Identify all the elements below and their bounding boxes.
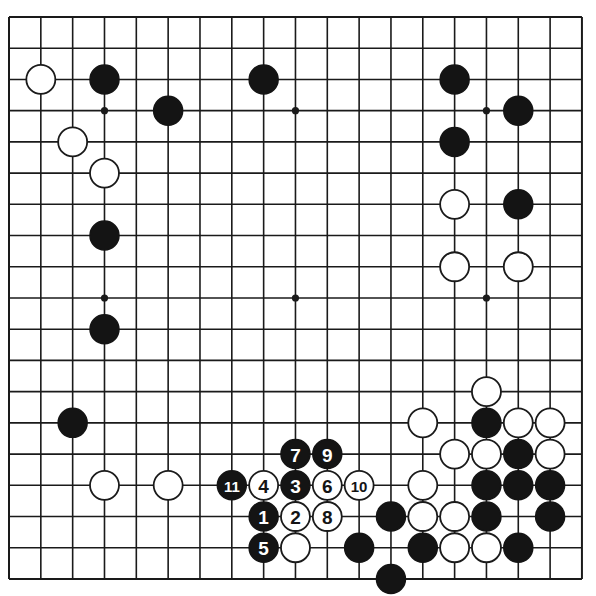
- numbered-move-8: 8: [313, 502, 342, 531]
- white-stone: [408, 502, 437, 531]
- star-point-icon: [483, 294, 490, 301]
- numbered-move-11: 11: [217, 471, 246, 500]
- white-stone: [90, 471, 119, 500]
- black-stone: [90, 65, 119, 94]
- black-stone: [504, 96, 533, 125]
- black-stone: [154, 96, 183, 125]
- black-stone: [472, 502, 501, 531]
- white-stone: [472, 377, 501, 406]
- go-board-diagram: 1234567891011: [0, 0, 596, 596]
- star-point-icon: [101, 294, 108, 301]
- black-stone: [90, 315, 119, 344]
- move-number-label: 2: [290, 507, 301, 528]
- white-stone: [440, 252, 469, 281]
- black-stone: [504, 533, 533, 562]
- move-number-label: 9: [322, 445, 333, 466]
- numbered-move-7: 7: [281, 440, 310, 469]
- white-stone: [154, 471, 183, 500]
- black-stone: [472, 408, 501, 437]
- white-stone: [440, 533, 469, 562]
- numbered-move-1: 1: [249, 502, 278, 531]
- white-stone: [536, 440, 565, 469]
- white-stone: [504, 408, 533, 437]
- black-stone: [440, 127, 469, 156]
- numbered-move-6: 6: [313, 471, 342, 500]
- black-stone: [345, 533, 374, 562]
- black-stone: [408, 533, 437, 562]
- black-stone: [536, 502, 565, 531]
- numbered-move-10: 10: [345, 471, 374, 500]
- white-stone: [440, 190, 469, 219]
- white-stone: [440, 440, 469, 469]
- black-stone: [472, 471, 501, 500]
- star-point-icon: [292, 107, 299, 114]
- numbered-move-9: 9: [313, 440, 342, 469]
- black-stone: [376, 564, 405, 593]
- star-point-icon: [292, 294, 299, 301]
- white-stone: [408, 471, 437, 500]
- white-stone: [472, 440, 501, 469]
- black-stone: [249, 65, 278, 94]
- white-stone: [58, 127, 87, 156]
- black-stone: [504, 440, 533, 469]
- numbered-move-3: 3: [281, 471, 310, 500]
- white-stone: [90, 159, 119, 188]
- black-stone: [536, 471, 565, 500]
- move-number-label: 7: [290, 445, 301, 466]
- black-stone: [440, 65, 469, 94]
- black-stone: [504, 190, 533, 219]
- white-stone: [440, 502, 469, 531]
- numbered-move-4: 4: [249, 471, 278, 500]
- white-stone: [536, 408, 565, 437]
- white-stone: [408, 408, 437, 437]
- star-point-icon: [483, 107, 490, 114]
- move-number-label: 6: [322, 476, 333, 497]
- white-stone: [26, 65, 55, 94]
- black-stone: [504, 471, 533, 500]
- white-stone: [281, 533, 310, 562]
- white-stone: [504, 252, 533, 281]
- black-stone: [90, 221, 119, 250]
- move-number-label: 4: [258, 476, 269, 497]
- move-number-label: 1: [258, 507, 269, 528]
- white-stone: [472, 533, 501, 562]
- black-stone: [376, 502, 405, 531]
- black-stone: [58, 408, 87, 437]
- move-number-label: 11: [224, 478, 240, 495]
- move-number-label: 8: [322, 507, 333, 528]
- numbered-move-5: 5: [249, 533, 278, 562]
- star-point-icon: [101, 107, 108, 114]
- numbered-move-2: 2: [281, 502, 310, 531]
- move-number-label: 10: [351, 478, 368, 495]
- move-number-label: 3: [290, 476, 301, 497]
- move-number-label: 5: [258, 538, 269, 559]
- go-board: 1234567891011: [0, 0, 596, 596]
